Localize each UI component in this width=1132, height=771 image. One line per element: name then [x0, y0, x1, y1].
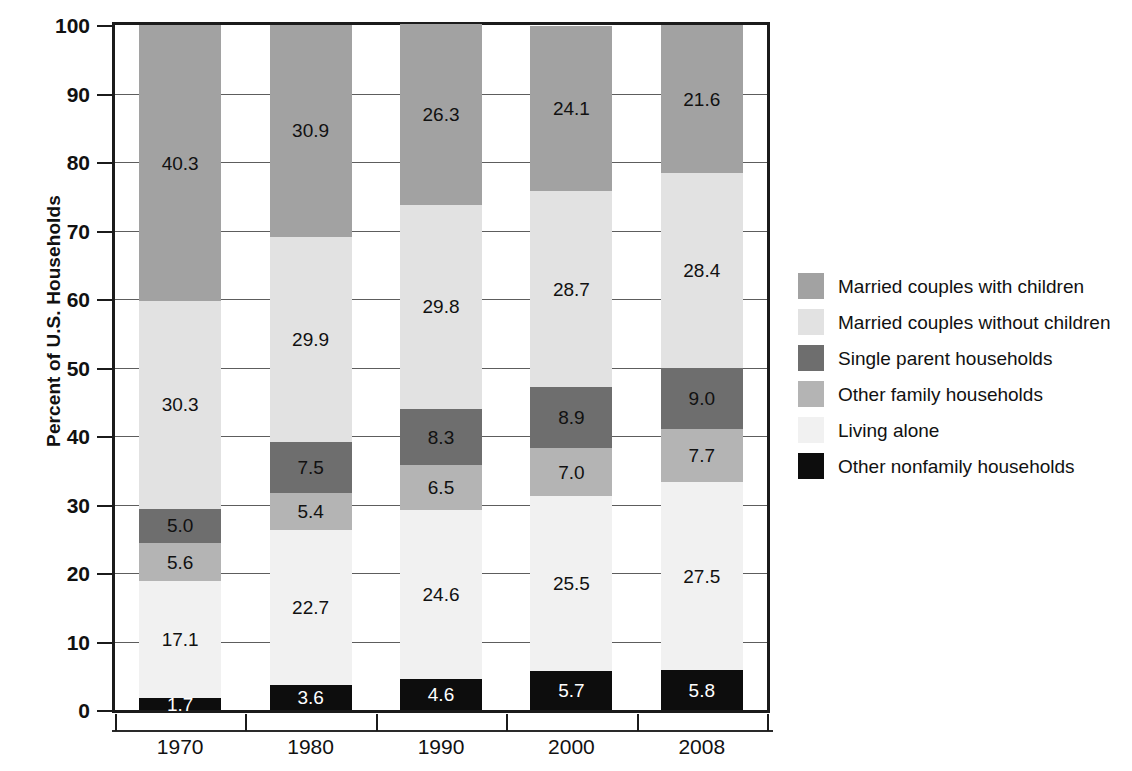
bar-segment[interactable]: 25.5 — [530, 496, 612, 671]
y-axis-tick-label: 10 — [32, 632, 90, 653]
bar-segment[interactable]: 5.0 — [139, 509, 221, 543]
bar-segment-value-label: 7.7 — [689, 446, 715, 465]
legend-item[interactable]: Other nonfamily households — [798, 448, 1128, 484]
y-axis-tick-label: 30 — [32, 495, 90, 516]
legend-item[interactable]: Other family households — [798, 376, 1128, 412]
x-axis-tick-label: 1990 — [386, 736, 496, 757]
y-axis-tick-label: 0 — [32, 700, 90, 721]
stacked-bar-chart: Percent of U.S. Households 1009080706050… — [0, 0, 1132, 771]
legend-item-label: Single parent households — [838, 349, 1052, 368]
bar-segment-value-label: 29.9 — [292, 330, 329, 349]
y-axis-tick-label: 90 — [32, 84, 90, 105]
bar-segment[interactable]: 17.1 — [139, 581, 221, 698]
legend-item-label: Living alone — [838, 421, 939, 440]
x-axis-tick — [767, 714, 769, 731]
legend-item[interactable]: Married couples without children — [798, 304, 1128, 340]
legend-item-label: Other family households — [838, 385, 1043, 404]
x-axis-tick — [115, 714, 117, 731]
bar-segment[interactable]: 21.6 — [661, 25, 743, 173]
plot-area: 40.330.35.05.617.11.730.929.97.55.422.73… — [112, 22, 770, 713]
x-axis-tick-label: 1980 — [256, 736, 366, 757]
bar-segment[interactable]: 24.6 — [400, 510, 482, 679]
bar-segment[interactable]: 26.3 — [400, 24, 482, 204]
bar-segment[interactable]: 5.4 — [270, 493, 352, 530]
bar-segment[interactable]: 30.3 — [139, 301, 221, 509]
bar-segment-value-label: 5.8 — [689, 681, 715, 700]
bar-segment[interactable]: 30.9 — [270, 25, 352, 237]
y-axis-tick-label: 50 — [32, 358, 90, 379]
bar-segment-value-label: 1.7 — [167, 695, 193, 714]
bar-column[interactable]: 24.128.78.97.025.55.7 — [530, 26, 612, 710]
x-axis-tick — [245, 714, 247, 731]
bar-segment-value-label: 24.6 — [423, 585, 460, 604]
bar-segment[interactable]: 3.6 — [270, 685, 352, 710]
y-axis-tick-label: 40 — [32, 426, 90, 447]
y-axis-tick-label: 70 — [32, 221, 90, 242]
y-axis-tick-label: 80 — [32, 152, 90, 173]
y-axis-tick-label: 60 — [32, 289, 90, 310]
legend-swatch — [798, 417, 824, 443]
bar-segment-value-label: 4.6 — [428, 685, 454, 704]
bar-segment[interactable]: 5.8 — [661, 670, 743, 710]
bar-segment-value-label: 24.1 — [553, 99, 590, 118]
legend-swatch — [798, 345, 824, 371]
legend-item[interactable]: Living alone — [798, 412, 1128, 448]
bar-segment-value-label: 28.7 — [553, 280, 590, 299]
bar-segment-value-label: 6.5 — [428, 478, 454, 497]
x-axis-tick — [506, 714, 508, 731]
bar-segment[interactable]: 5.6 — [139, 543, 221, 581]
bar-segment[interactable]: 4.6 — [400, 679, 482, 711]
bar-segment-value-label: 25.5 — [553, 574, 590, 593]
legend-item[interactable]: Married couples with children — [798, 268, 1128, 304]
bar-segment-value-label: 5.4 — [297, 502, 323, 521]
x-axis-tick-label: 2000 — [516, 736, 626, 757]
x-axis-tick-label: 2008 — [647, 736, 757, 757]
bar-segment-value-label: 29.8 — [423, 297, 460, 316]
legend-swatch — [798, 453, 824, 479]
bar-segment-value-label: 22.7 — [292, 598, 329, 617]
bar-segment[interactable]: 7.0 — [530, 448, 612, 496]
bar-segment-value-label: 7.0 — [558, 463, 584, 482]
legend: Married couples with childrenMarried cou… — [798, 268, 1128, 484]
bar-segment[interactable]: 5.7 — [530, 671, 612, 710]
x-axis-tick — [637, 714, 639, 731]
x-axis-line — [112, 730, 773, 732]
legend-swatch — [798, 273, 824, 299]
bar-segment-value-label: 5.7 — [558, 681, 584, 700]
bar-segment[interactable]: 9.0 — [661, 368, 743, 430]
bar-segment[interactable]: 40.3 — [139, 25, 221, 301]
bar-segment[interactable]: 8.3 — [400, 409, 482, 466]
bar-column[interactable]: 21.628.49.07.727.55.8 — [661, 25, 743, 710]
bar-column[interactable]: 26.329.88.36.524.64.6 — [400, 24, 482, 710]
bar-segment[interactable]: 7.7 — [661, 429, 743, 482]
bar-segment-value-label: 8.9 — [558, 408, 584, 427]
bar-segment[interactable]: 8.9 — [530, 387, 612, 448]
bar-segment[interactable]: 7.5 — [270, 442, 352, 493]
bar-segment-value-label: 9.0 — [689, 389, 715, 408]
bar-segment-value-label: 8.3 — [428, 428, 454, 447]
bar-series-container: 40.330.35.05.617.11.730.929.97.55.422.73… — [115, 25, 767, 710]
bar-segment[interactable]: 29.8 — [400, 205, 482, 409]
bar-segment[interactable]: 24.1 — [530, 26, 612, 191]
x-axis-tick — [376, 714, 378, 731]
bar-segment-value-label: 30.9 — [292, 121, 329, 140]
legend-item[interactable]: Single parent households — [798, 340, 1128, 376]
legend-item-label: Married couples with children — [838, 277, 1084, 296]
legend-item-label: Other nonfamily households — [838, 457, 1075, 476]
bar-segment[interactable]: 28.7 — [530, 191, 612, 388]
y-axis-tick-label: 100 — [32, 15, 90, 36]
bar-segment-value-label: 7.5 — [297, 458, 323, 477]
bar-segment[interactable]: 22.7 — [270, 530, 352, 685]
bar-segment[interactable]: 6.5 — [400, 465, 482, 510]
bar-segment-value-label: 3.6 — [297, 688, 323, 707]
bar-column[interactable]: 40.330.35.05.617.11.7 — [139, 25, 221, 710]
bar-column[interactable]: 30.929.97.55.422.73.6 — [270, 25, 352, 710]
bar-segment[interactable]: 29.9 — [270, 237, 352, 442]
bar-segment-value-label: 27.5 — [683, 567, 720, 586]
bar-segment-value-label: 17.1 — [162, 630, 199, 649]
bar-segment-value-label: 26.3 — [423, 105, 460, 124]
bar-segment[interactable]: 28.4 — [661, 173, 743, 368]
bar-segment-value-label: 5.6 — [167, 553, 193, 572]
bar-segment[interactable]: 1.7 — [139, 698, 221, 710]
bar-segment[interactable]: 27.5 — [661, 482, 743, 670]
